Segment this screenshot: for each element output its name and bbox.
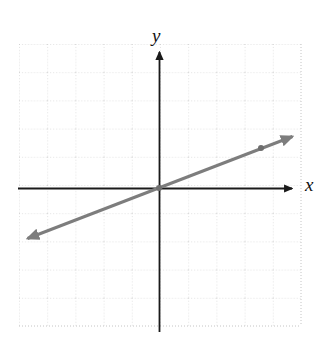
x-axis-label: x <box>305 175 313 194</box>
y-axis-label: y <box>152 26 160 45</box>
graph-figure: y x <box>0 0 320 338</box>
point-marker-origin <box>156 185 162 191</box>
coordinate-plane-svg <box>0 0 320 338</box>
point-marker-upper <box>258 145 264 151</box>
